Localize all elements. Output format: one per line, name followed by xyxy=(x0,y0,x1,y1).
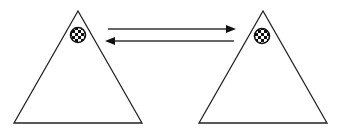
diagram-canvas xyxy=(0,0,340,133)
arrow-left xyxy=(105,37,234,45)
right-checkered-circle-icon xyxy=(255,29,270,44)
left-triangle xyxy=(14,11,142,123)
arrow-right xyxy=(108,25,236,33)
left-checkered-circle-icon xyxy=(71,28,86,43)
right-triangle xyxy=(199,11,327,123)
